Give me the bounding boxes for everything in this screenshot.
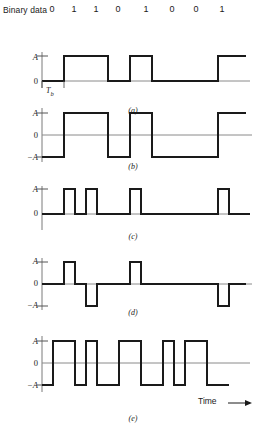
binary-data-header: Binary data 0 1 1 0 1 0 0 1 — [0, 0, 266, 22]
time-axis-label: Time — [198, 396, 217, 406]
caption-e: (e) — [0, 414, 266, 423]
bit-value-4: 1 — [140, 4, 152, 14]
digital-line-code-waveform-figure: Binary data 0 1 1 0 1 0 0 1 A 0 — [0, 0, 266, 428]
caption-b: (b) — [0, 162, 266, 171]
bit-value-3: 0 — [112, 4, 124, 14]
time-axis-arrowhead — [245, 400, 252, 406]
bit-period-label: Tb — [46, 86, 54, 97]
bit-value-7: 1 — [216, 4, 228, 14]
waveform-plot-d — [0, 248, 266, 316]
bit-value-6: 0 — [190, 4, 202, 14]
signal-trace-c — [42, 189, 250, 214]
signal-trace-a — [42, 56, 246, 81]
bit-value-5: 0 — [166, 4, 178, 14]
waveform-panel-b: A 0 −A (b) — [0, 100, 266, 166]
waveform-plot-b — [0, 100, 266, 166]
waveform-panel-e: A 0 −A Time (e) — [0, 330, 266, 428]
waveform-panel-d: A 0 −A (d) — [0, 248, 266, 316]
waveform-panel-a: A 0 Tb (a) — [0, 24, 266, 88]
bit-value-2: 1 — [90, 4, 102, 14]
bit-value-1: 1 — [68, 4, 80, 14]
caption-d: (d) — [0, 308, 266, 317]
bit-value-0: 0 — [46, 4, 58, 14]
caption-c: (c) — [0, 232, 266, 241]
binary-data-label: Binary data — [3, 5, 47, 15]
bit-period-subscript: b — [50, 90, 53, 97]
waveform-panel-c: A 0 (c) — [0, 178, 266, 240]
waveform-plot-c — [0, 178, 266, 240]
waveform-plot-a — [0, 24, 266, 88]
